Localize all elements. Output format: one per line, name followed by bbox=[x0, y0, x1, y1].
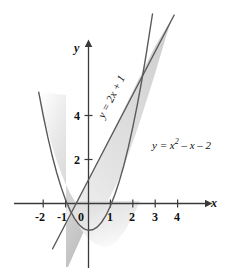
parabola-equation-label: y = x2 – x – 2 bbox=[152, 140, 211, 151]
x-tick-label-0: 0 bbox=[78, 211, 84, 223]
x-tick-label-4: 4 bbox=[174, 211, 180, 223]
parabola-label-prefix: y = x bbox=[152, 139, 175, 151]
x-axis-label: x bbox=[211, 197, 217, 209]
x-tick-label-3: 3 bbox=[152, 211, 158, 223]
shaded-region-left bbox=[39, 92, 92, 267]
y-tick-label-2: 2 bbox=[74, 154, 80, 166]
x-tick-label-2: 2 bbox=[129, 211, 135, 223]
y-tick-label-4: 4 bbox=[74, 110, 80, 122]
y-axis-label: y bbox=[74, 42, 79, 54]
x-tick-label-1: 1 bbox=[107, 211, 113, 223]
parabola-label-suffix: – x – 2 bbox=[179, 139, 211, 151]
x-tick-label--2: -2 bbox=[35, 211, 45, 223]
graph-figure: -2 -1 0 1 2 3 4 2 4 x y y = 2x + 1 y = x… bbox=[0, 0, 233, 275]
x-tick-label--1: -1 bbox=[57, 211, 67, 223]
plot-canvas bbox=[0, 0, 233, 275]
